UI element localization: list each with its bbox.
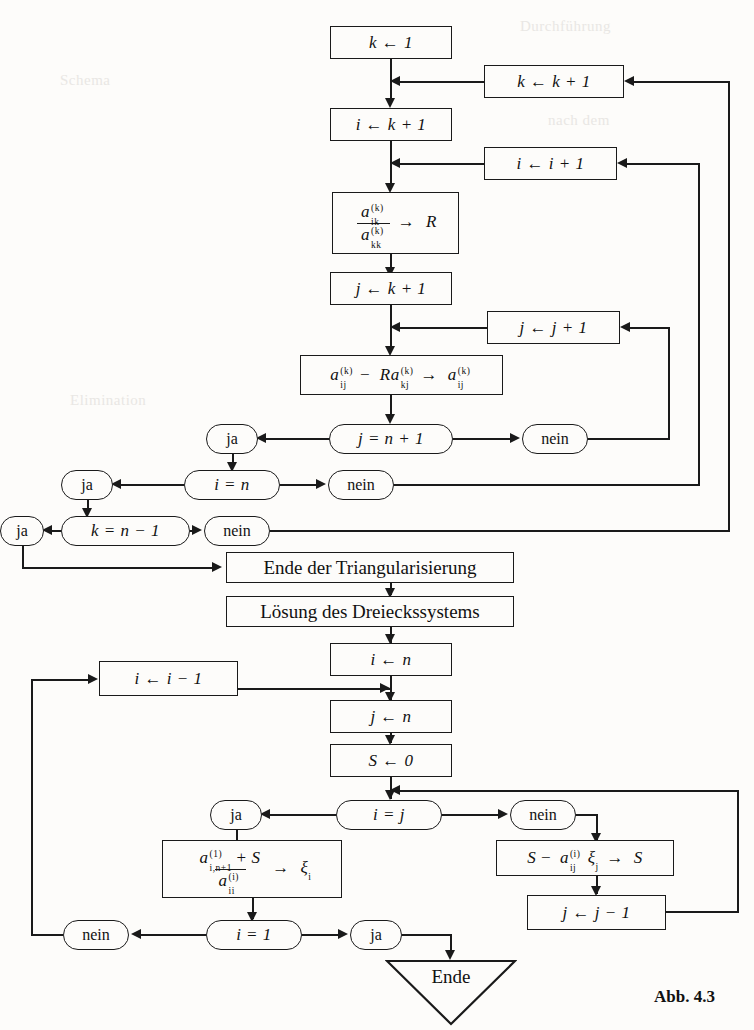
node-test-i[interactable]: i = n bbox=[184, 470, 280, 500]
edge-iincr-to-spine bbox=[398, 163, 484, 165]
edge-jak-right bbox=[22, 567, 216, 569]
node-testij-ja-label: ja bbox=[230, 806, 242, 824]
ratio-numerator-sup: (k) bbox=[371, 204, 384, 214]
xi-symbol-sub: i bbox=[308, 872, 311, 882]
edge-knein-right bbox=[270, 530, 730, 532]
arrowhead-testij-to-nein bbox=[498, 809, 508, 819]
node-i-init-n[interactable]: i ← n bbox=[330, 643, 452, 676]
edge-testi-to-ja bbox=[119, 484, 184, 486]
arrowhead-jnein-into-jincr bbox=[620, 322, 630, 332]
node-i-incr[interactable]: i ← i + 1 bbox=[484, 147, 617, 180]
edge-jai1-right bbox=[402, 934, 452, 936]
node-end-triangularization-label: Ende der Triangularisierung bbox=[263, 557, 476, 579]
edge-inein-into-iincr bbox=[625, 163, 700, 165]
update-r: R bbox=[380, 365, 391, 384]
arrowhead-testi1-to-ja bbox=[338, 929, 348, 939]
node-solve-label: Lösung des Dreieckssystems bbox=[260, 601, 480, 623]
figure-caption: Abb. 4.3 bbox=[654, 987, 715, 1007]
node-j-incr[interactable]: j ← j + 1 bbox=[487, 311, 620, 344]
supd-xi-sub: j bbox=[595, 862, 598, 872]
node-test-ij[interactable]: i = j bbox=[336, 800, 442, 830]
node-test-j[interactable]: j = n + 1 bbox=[329, 424, 453, 454]
node-j-decr[interactable]: j ← j − 1 bbox=[527, 895, 666, 930]
arrowhead-inein-into-iincr bbox=[617, 158, 627, 168]
node-test-k[interactable]: k = n − 1 bbox=[61, 516, 190, 546]
node-j-init-n[interactable]: j ← n bbox=[330, 700, 452, 733]
edge-ijnein-right bbox=[576, 814, 598, 816]
node-i-incr-label: i ← i + 1 bbox=[517, 154, 585, 174]
edge-i1nein-into-idecr bbox=[31, 679, 91, 681]
arrowhead-idecr-to-spine bbox=[380, 683, 390, 693]
node-testi1-ja-label: ja bbox=[370, 926, 382, 944]
ratio-denominator-sub: kk bbox=[371, 241, 382, 251]
node-s-update-label: S − aij(i) ξj → S bbox=[527, 848, 642, 868]
update-a1-sup: (k) bbox=[340, 367, 353, 377]
arrowhead-jdecr-into-spine bbox=[390, 785, 400, 795]
node-test-j-label: j = n + 1 bbox=[358, 429, 424, 449]
supd-arrow: → bbox=[606, 848, 624, 867]
node-testi-ja-label: ja bbox=[81, 476, 93, 494]
edge-knein-up bbox=[728, 81, 730, 532]
node-ratio[interactable]: aik(k) akk(k) → R bbox=[332, 192, 459, 254]
update-a1-sub: ij bbox=[340, 381, 346, 391]
edge-testij-to-nein bbox=[442, 814, 502, 816]
node-i-init-k[interactable]: i ← k + 1 bbox=[330, 108, 452, 141]
node-test-i1-label: i = 1 bbox=[236, 925, 272, 945]
node-testij-ja[interactable]: ja bbox=[210, 800, 262, 830]
node-testj-nein[interactable]: nein bbox=[522, 424, 588, 454]
node-test-i1[interactable]: i = 1 bbox=[206, 920, 302, 950]
arrowhead-testi-to-nein bbox=[316, 479, 326, 489]
edge-idecr-to-spine bbox=[238, 688, 390, 690]
node-testk-ja[interactable]: ja bbox=[0, 516, 44, 546]
xi-plus: + bbox=[237, 848, 247, 867]
node-ende[interactable]: Ende bbox=[385, 958, 517, 1026]
node-ende-label: Ende bbox=[385, 966, 517, 988]
node-test-ij-label: i = j bbox=[373, 805, 405, 825]
edge-inein-up bbox=[698, 163, 700, 486]
xi-den-a: a bbox=[219, 871, 228, 890]
node-i-init-n-label: i ← n bbox=[370, 650, 411, 670]
edge-inein-right bbox=[394, 484, 700, 486]
edge-testij-to-ja bbox=[268, 814, 336, 816]
node-testi1-nein[interactable]: nein bbox=[63, 920, 129, 950]
node-i-decr[interactable]: i ← i − 1 bbox=[99, 661, 238, 696]
update-a2-sup: (k) bbox=[401, 367, 414, 377]
xi-den-sub: ii bbox=[229, 887, 235, 897]
node-update[interactable]: aij(k) − Rakj(k) → aij(k) bbox=[300, 355, 503, 395]
node-testi1-ja[interactable]: ja bbox=[350, 920, 402, 950]
update-a2-sub: kj bbox=[401, 381, 409, 391]
edge-jdecr-back-left bbox=[398, 790, 739, 792]
node-k-incr[interactable]: k ← k + 1 bbox=[484, 65, 624, 98]
node-k-incr-label: k ← k + 1 bbox=[517, 72, 591, 92]
node-i-init-k-label: i ← k + 1 bbox=[356, 115, 427, 135]
node-solve-triangular-system[interactable]: Lösung des Dreieckssystems bbox=[226, 596, 514, 627]
ratio-denominator-a: a bbox=[361, 225, 370, 244]
node-xi[interactable]: ai,n+1(1)+ S aii(i) → ξi bbox=[162, 840, 342, 898]
node-testi-ja[interactable]: ja bbox=[61, 470, 113, 500]
edge-jdecr-right bbox=[666, 911, 737, 913]
xi-den-sup: (i) bbox=[229, 873, 239, 883]
node-j-incr-label: j ← j + 1 bbox=[520, 318, 588, 338]
node-update-label: aij(k) − Rakj(k) → aij(k) bbox=[330, 365, 472, 385]
ghost-text-4: Elimination bbox=[70, 392, 146, 409]
node-end-triangularization[interactable]: Ende der Triangularisierung bbox=[226, 552, 514, 583]
node-testij-nein-label: nein bbox=[529, 806, 557, 824]
node-testj-ja-label: ja bbox=[226, 430, 238, 448]
node-k-init[interactable]: k ← 1 bbox=[330, 26, 452, 59]
node-testk-nein[interactable]: nein bbox=[204, 516, 270, 546]
edge-i1nein-left bbox=[31, 934, 63, 936]
node-testj-nein-label: nein bbox=[541, 430, 569, 448]
arrowhead-spine-to-i-init bbox=[385, 98, 395, 108]
node-j-init-k[interactable]: j ← k + 1 bbox=[330, 272, 452, 305]
node-s-update[interactable]: S − aij(i) ξj → S bbox=[496, 840, 674, 876]
ratio-denominator-sup: (k) bbox=[371, 227, 384, 237]
xi-arrow: → bbox=[272, 858, 290, 877]
node-testij-nein[interactable]: nein bbox=[510, 800, 576, 830]
node-j-init-k-label: j ← k + 1 bbox=[356, 279, 427, 299]
arrowhead-testj-to-nein bbox=[510, 433, 520, 443]
node-s-init[interactable]: S ← 0 bbox=[330, 744, 452, 777]
supd-minus: − bbox=[541, 848, 551, 867]
edge-testi1-to-nein bbox=[139, 934, 206, 936]
node-testi-nein[interactable]: nein bbox=[328, 470, 394, 500]
node-testj-ja[interactable]: ja bbox=[206, 424, 258, 454]
